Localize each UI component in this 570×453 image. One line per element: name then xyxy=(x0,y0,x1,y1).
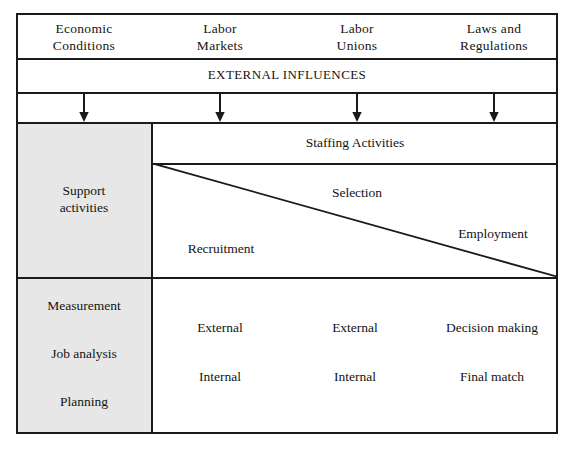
external-factor-labor-unions-line1: Labor xyxy=(340,21,374,36)
rule-below-external-influences xyxy=(16,92,558,94)
down-arrow-icon xyxy=(215,92,226,123)
rule-above-activity-matrix xyxy=(16,277,558,279)
support-activities-heading: Supportactivities xyxy=(19,183,149,217)
external-factor-laws-and-regulations-line2: Regulations xyxy=(460,38,528,53)
matrix-cell-r0c2: Decision making xyxy=(407,320,570,337)
external-factor-laws-and-regulations: Laws andRegulations xyxy=(419,21,569,55)
support-activities-heading-line2: activities xyxy=(60,200,109,215)
external-factor-labor-markets-line1: Labor xyxy=(203,21,237,36)
external-factor-labor-markets: LaborMarkets xyxy=(145,21,295,55)
down-arrow-icon xyxy=(352,92,363,123)
diagram-canvas: EconomicConditions LaborMarkets LaborUni… xyxy=(0,0,570,453)
support-item-job-analysis: Job analysis xyxy=(19,346,149,363)
down-arrow-icon xyxy=(79,92,90,123)
staffing-phase-recruitment: Recruitment xyxy=(141,241,301,258)
rule-below-external-factors xyxy=(16,58,558,60)
external-factor-labor-markets-line2: Markets xyxy=(197,38,243,53)
support-item-planning: Planning xyxy=(19,394,149,411)
rule-below-arrow-band xyxy=(16,122,558,124)
support-activities-heading-line1: Support xyxy=(63,183,106,198)
external-factor-labor-unions-line2: Unions xyxy=(337,38,378,53)
external-factor-economic-conditions-line2: Conditions xyxy=(53,38,115,53)
matrix-cell-r1c2: Final match xyxy=(407,369,570,386)
matrix-cell-r1c0: Internal xyxy=(145,369,295,386)
external-factor-economic-conditions: EconomicConditions xyxy=(9,21,159,55)
matrix-cell-r0c0: External xyxy=(145,320,295,337)
down-arrow-icon xyxy=(489,92,500,123)
external-factor-economic-conditions-line1: Economic xyxy=(55,21,112,36)
staffing-activities-band-label: Staffing Activities xyxy=(190,135,520,152)
external-factor-labor-unions: LaborUnions xyxy=(282,21,432,55)
support-item-measurement: Measurement xyxy=(19,298,149,315)
external-influences-band-label: EXTERNAL INFLUENCES xyxy=(107,67,467,83)
external-factor-laws-and-regulations-line1: Laws and xyxy=(467,21,522,36)
staffing-phase-employment: Employment xyxy=(418,226,568,243)
rule-below-staffing-activities xyxy=(151,163,558,165)
staffing-phase-selection: Selection xyxy=(282,185,432,202)
